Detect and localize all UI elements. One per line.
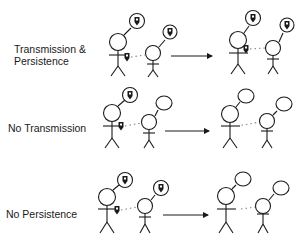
thought-bubble-idea bbox=[113, 173, 133, 191]
thought-bubble-idea bbox=[124, 14, 145, 36]
speaker-figure bbox=[221, 106, 240, 149]
listener-figure bbox=[142, 115, 157, 149]
thought-bubble-idea bbox=[244, 11, 261, 34]
thought-bubble-empty bbox=[155, 96, 172, 116]
thought-bubble-idea bbox=[118, 88, 138, 107]
speaker-figure bbox=[217, 188, 236, 234]
thought-bubble-empty bbox=[269, 181, 289, 200]
listener-figure bbox=[266, 41, 281, 75]
thought-bubble-idea bbox=[159, 25, 177, 47]
held-token-icon bbox=[115, 206, 120, 215]
thought-bubble-empty bbox=[236, 89, 254, 107]
thought-bubble-empty bbox=[273, 97, 292, 115]
thought-bubble-idea bbox=[151, 181, 169, 201]
thought-bubble-empty bbox=[232, 172, 251, 189]
speaker-figure bbox=[229, 32, 248, 75]
listener-figure bbox=[256, 199, 271, 234]
listener-figure bbox=[260, 114, 275, 149]
held-token-icon bbox=[244, 45, 249, 54]
diagram-canvas bbox=[0, 0, 303, 242]
listener-figure bbox=[146, 46, 161, 78]
held-token-icon bbox=[125, 53, 130, 62]
held-token-icon bbox=[119, 122, 124, 131]
speaker-figure bbox=[98, 189, 117, 234]
thought-bubble-idea bbox=[279, 18, 294, 42]
listener-figure bbox=[138, 199, 153, 234]
